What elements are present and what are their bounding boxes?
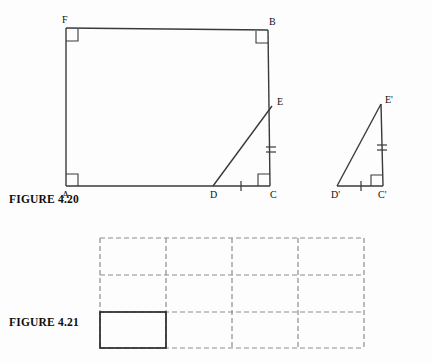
right-angle-marker-B — [256, 31, 268, 43]
vertex-label-F: F — [62, 14, 68, 25]
dashed-grid — [100, 238, 364, 348]
right-angle-markers-quadrilateral — [66, 29, 270, 186]
geometry-diagram-canvas: F B C A D E D' E' C' — [0, 0, 432, 363]
figure-420-group: F B C A D E D' E' C' — [62, 14, 393, 200]
vertex-label-D-prime: D' — [331, 189, 340, 200]
figure-420-caption: FIGURE 4.20 — [9, 193, 79, 205]
figure-421-group — [100, 238, 364, 348]
segment-D-prime-E-prime — [337, 104, 381, 186]
right-angle-marker-C-prime — [371, 175, 382, 186]
quadrilateral-AFBC — [66, 28, 270, 186]
triangle-D-prime-E-prime-C-prime — [337, 104, 383, 186]
right-angle-marker-F — [66, 29, 78, 41]
vertex-label-D: D — [210, 189, 217, 200]
right-angle-marker-A — [66, 174, 78, 186]
grid-highlight-cell — [100, 312, 166, 348]
vertex-label-B: B — [269, 16, 276, 27]
vertex-label-E-prime: E' — [385, 94, 393, 105]
vertex-label-E: E — [277, 96, 283, 107]
segment-FB — [66, 28, 268, 30]
vertex-label-C-prime: C' — [378, 189, 387, 200]
figure-421-caption: FIGURE 4.21 — [9, 316, 79, 328]
right-angle-marker-C — [258, 174, 270, 186]
figure-page: F B C A D E D' E' C' — [0, 0, 432, 363]
vertex-label-C: C — [270, 189, 277, 200]
